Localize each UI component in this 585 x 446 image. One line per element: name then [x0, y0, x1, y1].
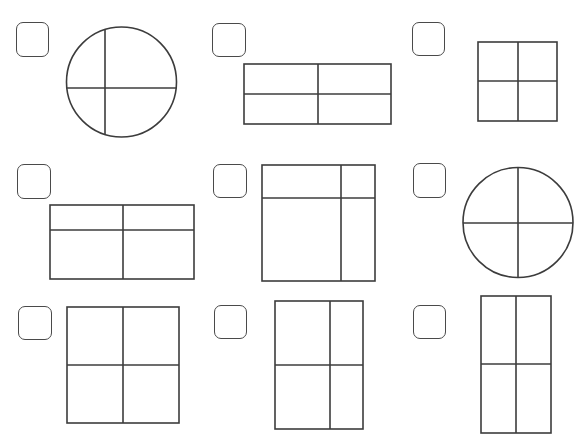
divided-rectangle-figure [0, 0, 585, 446]
divided-circle-figure [0, 0, 585, 446]
option-checkbox[interactable] [212, 23, 246, 57]
divided-rectangle-figure [0, 0, 585, 446]
option-checkbox[interactable] [214, 305, 247, 339]
option-checkbox[interactable] [213, 164, 247, 198]
option-checkbox[interactable] [412, 22, 445, 56]
divided-rectangle-figure [0, 0, 585, 446]
divided-rectangle-figure [0, 0, 585, 446]
option-checkbox[interactable] [16, 22, 49, 57]
option-checkbox[interactable] [17, 164, 51, 199]
divided-rectangle-figure [0, 0, 585, 446]
divided-rectangle-figure [0, 0, 585, 446]
fraction-quiz-board [0, 0, 585, 446]
divided-circle-figure [0, 0, 585, 446]
divided-rectangle-figure [0, 0, 585, 446]
option-checkbox[interactable] [18, 306, 52, 340]
option-checkbox[interactable] [413, 163, 446, 198]
option-checkbox[interactable] [413, 305, 446, 339]
